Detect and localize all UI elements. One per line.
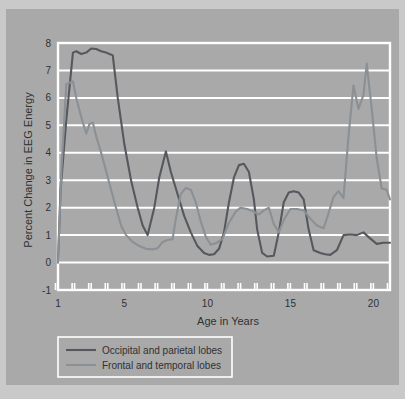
x-tick-label: 20 bbox=[368, 298, 380, 309]
y-tick-label: 7 bbox=[45, 65, 51, 76]
y-tick-label: 8 bbox=[45, 38, 51, 49]
y-tick-label: 6 bbox=[45, 92, 51, 103]
series-line-1 bbox=[58, 48, 390, 262]
x-tick-label: 10 bbox=[202, 298, 214, 309]
x-tick-label: 15 bbox=[285, 298, 297, 309]
y-tick-label: 4 bbox=[45, 147, 51, 158]
y-axis-title: Percent Change in EEG Energy bbox=[22, 92, 34, 248]
series-line-2 bbox=[58, 64, 390, 263]
plot-frame bbox=[58, 43, 390, 290]
data-series-group bbox=[58, 48, 390, 262]
y-tick-label: 0 bbox=[45, 257, 51, 268]
y-tick-label: 3 bbox=[45, 175, 51, 186]
legend-border-box bbox=[58, 337, 232, 377]
x-axis-tick-labels: 15101520 bbox=[55, 298, 379, 309]
x-tick-label: 5 bbox=[122, 298, 128, 309]
y-tick-label: 2 bbox=[45, 202, 51, 213]
legend-items-group: Occipital and parietal lobesFrontal and … bbox=[66, 345, 222, 371]
y-tick-label: 5 bbox=[45, 120, 51, 131]
y-tick-label: 1 bbox=[45, 230, 51, 241]
figure-container: -1012345678 15101520 Percent Change in E… bbox=[0, 0, 405, 399]
chart-legend: Occipital and parietal lobesFrontal and … bbox=[58, 337, 232, 377]
x-tick-label: 1 bbox=[55, 298, 61, 309]
x-axis-title: Age in Years bbox=[197, 315, 259, 327]
legend-label-2: Frontal and temporal lobes bbox=[102, 360, 221, 371]
legend-label-1: Occipital and parietal lobes bbox=[102, 345, 222, 356]
plot-area-border bbox=[58, 43, 390, 290]
y-tick-label: -1 bbox=[42, 285, 51, 296]
eeg-energy-line-chart: -1012345678 15101520 Percent Change in E… bbox=[0, 0, 405, 399]
y-axis-tick-labels: -1012345678 bbox=[42, 38, 51, 296]
